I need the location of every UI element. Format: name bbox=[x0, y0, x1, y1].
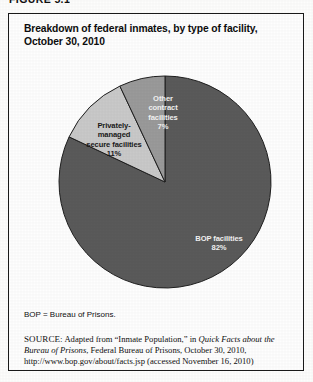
figure-number-label: FIGURE 5.1 bbox=[9, 0, 70, 4]
pie-label-private-value: 11% bbox=[107, 149, 121, 158]
pie-label-privately-managed: Privately- managed secure facilities 11% bbox=[71, 121, 157, 158]
pie-label-private-name-1: Privately- bbox=[97, 121, 130, 130]
pie-label-other-value: 7% bbox=[158, 122, 169, 131]
pie-label-other-name-1: Other bbox=[153, 94, 173, 103]
pie-label-bop-facilities: BOP facilities 82% bbox=[177, 234, 261, 253]
pie-label-other-name-3: facilities bbox=[148, 113, 177, 122]
pie-label-other-name-2: contract bbox=[148, 103, 177, 112]
figure-page: FIGURE 5.1 Breakdown of federal inmates,… bbox=[0, 0, 313, 382]
pie-label-bop-name: BOP facilities bbox=[195, 234, 242, 243]
figure-frame: Breakdown of federal inmates, by type of… bbox=[8, 13, 304, 371]
pie-slice-other-contract[interactable] bbox=[120, 76, 165, 182]
pie-slice-bop-facilities[interactable] bbox=[59, 76, 271, 288]
source-text-part-1: Adapted from “Inmate Population,” in bbox=[63, 334, 199, 344]
abbreviation-note: BOP = Bureau of Prisons. bbox=[24, 310, 116, 319]
pie-chart-svg bbox=[9, 14, 305, 304]
source-note: SOURCE: Adapted from “Inmate Population,… bbox=[24, 334, 298, 368]
pie-label-private-name-2: managed bbox=[98, 130, 131, 139]
figure-title-line-2: October 30, 2010 bbox=[24, 35, 286, 48]
pie-chart: BOP facilities 82% Privately- managed se… bbox=[9, 14, 305, 304]
figure-title-line-1: Breakdown of federal inmates, by type of… bbox=[24, 23, 257, 34]
pie-label-bop-value: 82% bbox=[212, 243, 227, 252]
source-label: SOURCE: bbox=[24, 334, 63, 344]
pie-label-private-name-3: secure facilities bbox=[86, 140, 141, 149]
pie-slice-privately-managed[interactable] bbox=[69, 86, 165, 182]
pie-label-other-contract: Other contract facilities 7% bbox=[143, 94, 183, 131]
figure-title: Breakdown of federal inmates, by type of… bbox=[24, 22, 286, 48]
